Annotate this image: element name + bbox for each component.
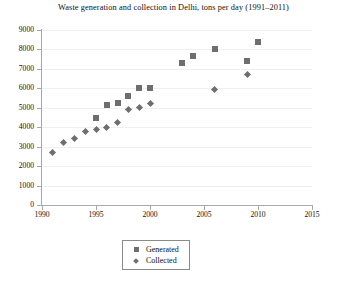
gridline [42, 127, 312, 128]
y-tick-label: 6000 [0, 84, 34, 92]
y-tick-mark [37, 69, 41, 70]
gridline [42, 147, 312, 148]
gridline [42, 69, 312, 70]
plot-area [42, 30, 312, 205]
x-tick-label: 2010 [238, 211, 278, 219]
data-point-generated [190, 53, 196, 59]
y-tick-label: 0 [0, 201, 34, 209]
x-tick-label: 2000 [130, 211, 170, 219]
y-tick-label: 7000 [0, 65, 34, 73]
x-tick-label: 1995 [76, 211, 116, 219]
square-marker-icon [130, 247, 142, 252]
y-tick-mark [37, 49, 41, 50]
y-tick-mark [37, 30, 41, 31]
x-tick-label: 2005 [184, 211, 224, 219]
gridline [42, 166, 312, 167]
legend-label: Collected [142, 256, 177, 265]
y-tick-mark [37, 108, 41, 109]
gridline [42, 30, 312, 31]
y-tick-mark [37, 147, 41, 148]
y-tick-label: 8000 [0, 45, 34, 53]
gridline [42, 108, 312, 109]
data-point-generated [244, 58, 250, 64]
diamond-marker-icon [130, 259, 142, 263]
x-axis-line [41, 205, 313, 206]
x-tick-label: 2015 [292, 211, 332, 219]
y-axis-line [41, 29, 42, 206]
y-tick-label: 1000 [0, 182, 34, 190]
x-tick-label: 1990 [22, 211, 62, 219]
legend-label: Generated [142, 245, 179, 254]
y-tick-mark [37, 88, 41, 89]
data-point-generated [136, 85, 142, 91]
chart-title: Waste generation and collection in Delhi… [0, 3, 347, 12]
y-tick-label: 5000 [0, 104, 34, 112]
y-tick-mark [37, 186, 41, 187]
data-point-generated [125, 93, 131, 99]
y-tick-label: 2000 [0, 162, 34, 170]
chart-legend: GeneratedCollected [122, 240, 190, 270]
legend-item: Generated [130, 244, 179, 255]
gridline [42, 88, 312, 89]
legend-item: Collected [130, 255, 179, 266]
data-point-generated [179, 60, 185, 66]
y-tick-label: 3000 [0, 143, 34, 151]
y-tick-label: 4000 [0, 123, 34, 131]
data-point-generated [115, 100, 121, 106]
y-tick-mark [37, 166, 41, 167]
gridline [42, 49, 312, 50]
gridline [42, 186, 312, 187]
data-point-generated [147, 85, 153, 91]
y-tick-mark [37, 205, 41, 206]
data-point-generated [212, 46, 218, 52]
data-point-generated [255, 39, 261, 45]
y-tick-label: 9000 [0, 26, 34, 34]
data-point-generated [104, 102, 110, 108]
y-tick-mark [37, 127, 41, 128]
data-point-generated [93, 115, 99, 121]
chart-figure: Waste generation and collection in Delhi… [0, 0, 347, 287]
